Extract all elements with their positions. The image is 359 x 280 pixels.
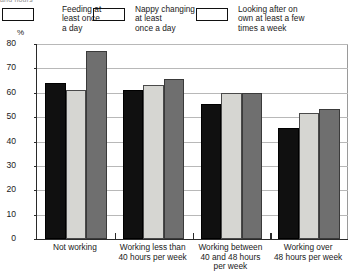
bars-layer	[37, 44, 348, 239]
bar-g3-s1	[299, 113, 320, 239]
y-tick-label-40: 40	[0, 137, 16, 146]
bar-chart: and hours Feeding at least once a day Na…	[0, 0, 359, 280]
bar-g2-s0	[201, 104, 222, 239]
y-tick-label-50: 50	[0, 112, 16, 121]
y-tick-label-80: 80	[0, 39, 16, 48]
bar-g1-s0	[123, 90, 144, 239]
bar-g0-s2	[86, 51, 107, 239]
group-separator-tick-1	[193, 233, 195, 240]
chart-legend: Feeding at least once a day Nappy changi…	[0, 6, 359, 42]
legend-label-looking-after: Looking after on own at least a few time…	[238, 5, 304, 33]
y-tick-label-20: 20	[0, 185, 16, 194]
legend-swatch-nappy	[93, 8, 125, 21]
x-label-3: Working over48 hours per week	[261, 243, 355, 262]
title-remnant-text: and hours	[0, 0, 150, 3]
plot-area	[36, 44, 348, 240]
y-tick-label-0: 0	[0, 234, 16, 243]
bar-g1-s2	[164, 79, 185, 239]
bar-g0-s0	[45, 83, 66, 239]
bar-g3-s2	[319, 109, 340, 239]
y-tick-label-70: 70	[0, 63, 16, 72]
group-separator-tick-2	[270, 233, 272, 240]
bar-g2-s1	[221, 93, 242, 239]
legend-item-looking-after: Looking after on own at least a few time…	[238, 6, 358, 42]
y-axis-unit-label: %	[17, 28, 24, 37]
bar-g2-s2	[242, 93, 263, 239]
y-tick-label-10: 10	[0, 210, 16, 219]
y-tick-mark-0	[34, 239, 37, 240]
x-axis-category-labels: Not workingWorking less than40 hours per…	[36, 243, 347, 280]
legend-swatch-looking-after	[196, 8, 228, 21]
bar-g0-s1	[66, 90, 87, 239]
legend-label-nappy: Nappy changing at least once a day	[135, 5, 195, 33]
bar-g3-s0	[278, 128, 299, 239]
y-tick-label-30: 30	[0, 161, 16, 170]
bar-g1-s1	[143, 85, 164, 239]
group-separator-tick-0	[115, 233, 117, 240]
y-tick-label-60: 60	[0, 88, 16, 97]
legend-swatch-feeding	[2, 8, 34, 21]
